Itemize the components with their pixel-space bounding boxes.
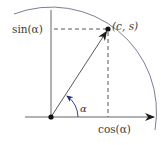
- angle-arc-icon: [67, 96, 78, 117]
- origin-point: [48, 114, 53, 119]
- sin-label: sin(α): [12, 23, 43, 35]
- unit-point: [105, 26, 110, 31]
- cos-label: cos(α): [98, 123, 131, 135]
- point-label: (c, s): [112, 20, 138, 32]
- radius-vector: [51, 32, 107, 118]
- unit-circle-diagram: sin(α) (c, s) cos(α) α: [0, 0, 161, 145]
- angle-label: α: [80, 103, 87, 114]
